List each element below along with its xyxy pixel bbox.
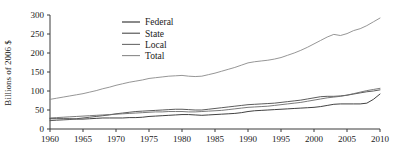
y-tick-label: 300 [31, 10, 45, 20]
y-tick-label: 250 [31, 29, 45, 39]
legend-label-federal: Federal [145, 17, 174, 27]
x-tick-label: 2005 [338, 134, 357, 144]
chart-legend: FederalStateLocalTotal [122, 17, 174, 61]
x-tick-label: 1995 [272, 134, 291, 144]
y-tick-label: 0 [40, 124, 45, 134]
x-axis-ticks: 1960196519701975198019851990199520002005… [41, 129, 390, 144]
legend-label-local: Local [145, 40, 167, 50]
x-tick-label: 2000 [305, 134, 324, 144]
x-tick-label: 1980 [173, 134, 192, 144]
y-tick-label: 150 [31, 67, 45, 77]
y-tick-label: 200 [31, 48, 45, 58]
chart-figure: Billions of 2006 $ 050100150200250300 19… [0, 0, 396, 155]
x-tick-label: 1990 [239, 134, 258, 144]
legend-label-total: Total [145, 51, 165, 61]
x-tick-label: 1970 [107, 134, 126, 144]
line-chart: Billions of 2006 $ 050100150200250300 19… [0, 0, 396, 155]
y-axis-title-text: Billions of 2006 $ [3, 40, 13, 106]
y-axis-ticks: 050100150200250300 [31, 10, 51, 134]
x-tick-label: 1965 [74, 134, 93, 144]
x-tick-label: 1960 [41, 134, 60, 144]
y-axis-title: Billions of 2006 $ [3, 40, 13, 106]
series-lines [50, 18, 380, 121]
y-tick-label: 100 [31, 86, 45, 96]
legend-label-state: State [145, 29, 164, 39]
series-line-local [50, 88, 380, 118]
series-line-total [50, 18, 380, 99]
x-tick-label: 1975 [140, 134, 159, 144]
x-tick-label: 1985 [206, 134, 225, 144]
y-tick-label: 50 [35, 105, 45, 115]
x-tick-label: 2010 [371, 134, 390, 144]
